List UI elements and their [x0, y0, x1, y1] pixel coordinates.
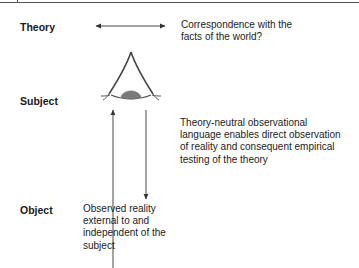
level-label-subject: Subject — [20, 95, 58, 107]
annotation-observed-reality: Observed reality external to and indepen… — [83, 203, 166, 252]
level-label-theory: Theory — [20, 21, 55, 33]
annotation-correspondence: Correspondence with the facts of the wor… — [181, 19, 292, 43]
level-label-object: Object — [20, 204, 53, 216]
eye-icon — [101, 52, 161, 100]
annotation-observational-language: Theory-neutral observational language en… — [180, 117, 341, 166]
